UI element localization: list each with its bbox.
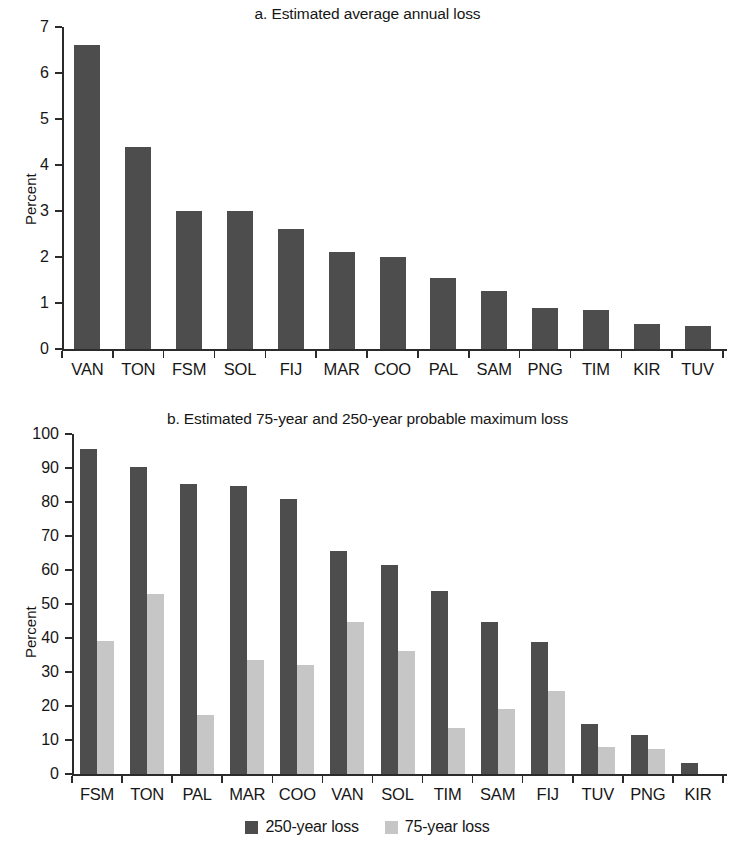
y-axis-tick-label: 3 xyxy=(5,202,49,220)
y-axis-tick-label: 0 xyxy=(5,340,49,358)
x-axis-category-label: SAM xyxy=(469,360,520,379)
y-axis-tick-label: 1 xyxy=(5,294,49,312)
x-axis-tick-mark xyxy=(366,351,368,358)
x-axis-tick-mark xyxy=(272,776,274,783)
x-axis-category-label: TUV xyxy=(672,360,723,379)
y-axis-tick-label: 100 xyxy=(15,425,59,443)
x-axis-tick-mark xyxy=(671,351,673,358)
legend-swatch-icon xyxy=(385,821,398,834)
bar xyxy=(278,229,304,349)
y-axis-tick-label: 40 xyxy=(15,629,59,647)
y-axis-tick-label: 50 xyxy=(15,595,59,613)
x-axis-category-label: TUV xyxy=(573,785,623,804)
y-axis-tick-mark xyxy=(65,671,72,673)
x-axis-category-label: KIR xyxy=(673,785,723,804)
x-axis-category-label: TON xyxy=(122,785,172,804)
bar xyxy=(247,660,264,774)
x-axis-category-label: TIM xyxy=(570,360,621,379)
bar xyxy=(125,147,151,349)
y-axis-tick-label: 0 xyxy=(15,765,59,783)
x-axis-tick-mark xyxy=(322,776,324,783)
x-axis-tick-mark xyxy=(622,776,624,783)
x-axis-category-label: SOL xyxy=(372,785,422,804)
y-axis-tick-label: 30 xyxy=(15,663,59,681)
y-axis-tick-mark xyxy=(65,569,72,571)
y-axis-tick-mark xyxy=(55,164,62,166)
y-axis-tick-mark xyxy=(65,603,72,605)
legend-swatch-icon xyxy=(245,821,258,834)
bar xyxy=(498,709,515,774)
bar xyxy=(176,211,202,349)
x-axis-category-label: SOL xyxy=(215,360,266,379)
y-axis-tick-label: 2 xyxy=(5,248,49,266)
chart-b-plot-area: 0102030405060708090100FSMTONPALMARCOOVAN… xyxy=(72,434,723,774)
y-axis-tick-mark xyxy=(55,118,62,120)
x-axis-tick-mark xyxy=(672,776,674,783)
y-axis-tick-label: 80 xyxy=(15,493,59,511)
bar xyxy=(180,484,197,774)
legend-label: 75-year loss xyxy=(405,818,490,836)
bar xyxy=(330,551,347,774)
y-axis-line xyxy=(62,27,64,351)
bar xyxy=(280,499,297,774)
x-axis-category-label: TON xyxy=(113,360,164,379)
x-axis-category-label: VAN xyxy=(62,360,113,379)
x-axis-category-label: SAM xyxy=(473,785,523,804)
y-axis-tick-label: 6 xyxy=(5,64,49,82)
bar xyxy=(681,763,698,774)
x-axis-line xyxy=(72,774,727,776)
y-axis-tick-label: 90 xyxy=(15,459,59,477)
x-axis-tick-mark xyxy=(417,351,419,358)
bar xyxy=(380,257,406,349)
bar xyxy=(297,665,314,774)
x-axis-tick-mark xyxy=(121,776,123,783)
y-axis-tick-mark xyxy=(55,26,62,28)
x-axis-category-label: MAR xyxy=(316,360,367,379)
x-axis-tick-mark xyxy=(315,351,317,358)
bar xyxy=(230,486,247,774)
bar xyxy=(130,467,147,774)
y-axis-tick-mark xyxy=(55,256,62,258)
y-axis-tick-label: 70 xyxy=(15,527,59,545)
bar xyxy=(648,749,665,774)
y-axis-tick-mark xyxy=(65,637,72,639)
bar xyxy=(80,449,97,774)
chart-panel-b: b. Estimated 75-year and 250-year probab… xyxy=(0,408,735,848)
bar xyxy=(481,291,507,349)
bar xyxy=(581,724,598,774)
y-axis-tick-mark xyxy=(65,739,72,741)
bar xyxy=(430,278,456,349)
x-axis-tick-mark xyxy=(112,351,114,358)
x-axis-tick-mark xyxy=(71,776,73,783)
bar xyxy=(548,691,565,774)
chart-panel-a: a. Estimated average annual loss Percent… xyxy=(0,0,735,400)
bar xyxy=(431,591,448,774)
legend-item: 250-year loss xyxy=(245,818,358,836)
x-axis-tick-mark xyxy=(621,351,623,358)
y-axis-tick-mark xyxy=(55,72,62,74)
y-axis-tick-mark xyxy=(55,348,62,350)
x-axis-tick-mark xyxy=(572,776,574,783)
x-axis-category-label: COO xyxy=(367,360,418,379)
bar xyxy=(227,211,253,349)
x-axis-tick-mark xyxy=(519,351,521,358)
y-axis-tick-label: 4 xyxy=(5,156,49,174)
y-axis-tick-mark xyxy=(65,501,72,503)
x-axis-tick-mark xyxy=(214,351,216,358)
bar xyxy=(97,641,114,774)
bar xyxy=(329,252,355,349)
x-axis-tick-mark xyxy=(722,351,724,358)
y-axis-tick-mark xyxy=(65,467,72,469)
x-axis-tick-mark xyxy=(372,776,374,783)
x-axis-category-label: PAL xyxy=(172,785,222,804)
x-axis-tick-mark xyxy=(265,351,267,358)
x-axis-tick-mark xyxy=(61,351,63,358)
bar xyxy=(583,310,609,349)
y-axis-tick-label: 10 xyxy=(15,731,59,749)
legend-label: 250-year loss xyxy=(265,818,358,836)
bar xyxy=(634,324,660,349)
y-axis-line xyxy=(72,434,74,776)
bar xyxy=(347,622,364,774)
y-axis-tick-mark xyxy=(55,302,62,304)
chart-b-legend: 250-year loss75-year loss xyxy=(0,818,735,836)
